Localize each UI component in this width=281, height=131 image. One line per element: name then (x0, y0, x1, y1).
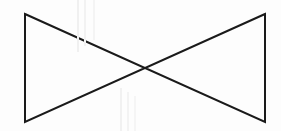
bowtie-figure (0, 0, 281, 131)
figure-canvas (0, 0, 281, 131)
